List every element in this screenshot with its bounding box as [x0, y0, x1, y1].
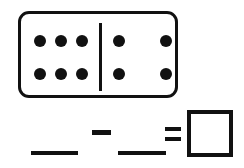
domino-tile: [18, 11, 178, 98]
domino-pip: [160, 68, 172, 80]
minuend-blank-line[interactable]: [31, 151, 78, 155]
domino-pip: [76, 35, 88, 47]
domino-pip: [160, 35, 172, 47]
equals-operator-icon: [165, 127, 181, 141]
domino-pip: [76, 68, 88, 80]
domino-pip: [113, 68, 125, 80]
domino-left-half: [21, 14, 99, 95]
equals-bar-bottom: [165, 137, 181, 141]
worksheet-page: [0, 0, 244, 168]
minus-operator-icon: [92, 130, 111, 135]
answer-box[interactable]: [187, 110, 233, 157]
domino-pip: [34, 35, 46, 47]
subtrahend-blank-line[interactable]: [118, 151, 166, 155]
domino-right-half: [102, 14, 175, 95]
domino-pip: [55, 35, 67, 47]
domino-pip: [55, 68, 67, 80]
domino-pip: [113, 35, 125, 47]
equals-bar-top: [165, 127, 181, 131]
domino-pip: [34, 68, 46, 80]
